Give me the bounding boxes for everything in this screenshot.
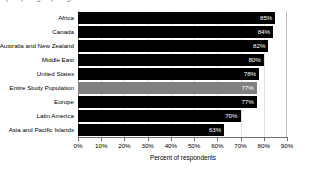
bar-category-label: Entire Study Population (9, 83, 74, 92)
x-tick-mark (171, 138, 172, 141)
bar-track: 63% (78, 124, 287, 136)
bar-value-label: 82% (253, 40, 265, 52)
bar-track: 77% (78, 82, 287, 94)
x-tick-mark (287, 138, 288, 141)
bar-rows: Africa85%Canada84%Australia and New Zeal… (0, 11, 313, 137)
x-tick-mark (78, 138, 79, 141)
bar-category-label: Africa (58, 13, 74, 22)
bar-chart: Africa85%Canada84%Australia and New Zeal… (0, 0, 313, 172)
bar-category-label: Asia and Pacific Islands (9, 125, 74, 134)
bar: 63% (78, 124, 224, 136)
bar-track: 84% (78, 26, 287, 38)
bar-track: 78% (78, 68, 287, 80)
bar-category-label: Middle East (42, 55, 74, 64)
bar-row: United States78% (0, 67, 313, 81)
bar-track: 70% (78, 110, 287, 122)
x-tick-label: 80% (258, 142, 270, 150)
bar: 82% (78, 40, 268, 52)
bar: 80% (78, 54, 264, 66)
bar-row: Canada84% (0, 25, 313, 39)
x-tick-mark (241, 138, 242, 141)
bar-value-label: 77% (241, 96, 253, 108)
bar-track: 82% (78, 40, 287, 52)
x-tick-label: 0% (74, 142, 83, 150)
x-tick-label: 10% (95, 142, 107, 150)
bar-row: Middle East80% (0, 53, 313, 67)
x-tick-mark (124, 138, 125, 141)
x-tick-label: 60% (211, 142, 223, 150)
bar: 77% (78, 96, 257, 108)
bar-category-label: Australia and New Zealand (0, 41, 74, 50)
x-axis-title: Percent of respondents (78, 153, 288, 162)
bar: 77% (78, 82, 257, 94)
bar-value-label: 63% (209, 124, 221, 136)
x-tick-mark (217, 138, 218, 141)
bar-category-label: Europe (54, 97, 74, 106)
bar-category-label: Canada (52, 27, 74, 36)
x-tick-mark (148, 138, 149, 141)
bar-track: 80% (78, 54, 287, 66)
x-tick-label: 70% (234, 142, 246, 150)
bar-category-label: United States (37, 69, 74, 78)
bar-row: Asia and Pacific Islands63% (0, 123, 313, 137)
bar: 70% (78, 110, 241, 122)
x-tick-mark (101, 138, 102, 141)
x-tick-mark (194, 138, 195, 141)
bar-value-label: 84% (258, 26, 270, 38)
bar-track: 85% (78, 12, 287, 24)
bar-category-label: Latin America (37, 111, 75, 120)
x-axis-line (78, 137, 288, 138)
bar-value-label: 78% (244, 68, 256, 80)
bar-row: Europe77% (0, 95, 313, 109)
x-tick-mark (264, 138, 265, 141)
x-tick-label: 90% (281, 142, 293, 150)
bar-track: 77% (78, 96, 287, 108)
bar-value-label: 80% (248, 54, 260, 66)
x-tick-label: 20% (118, 142, 130, 150)
bar-row: Latin America70% (0, 109, 313, 123)
bar-row: Australia and New Zealand82% (0, 39, 313, 53)
bar-value-label: 85% (260, 12, 272, 24)
bar-row: Entire Study Population77% (0, 81, 313, 95)
bar-value-label: 77% (241, 82, 253, 94)
x-tick-label: 50% (188, 142, 200, 150)
bar: 78% (78, 68, 259, 80)
bar: 85% (78, 12, 275, 24)
bar-value-label: 70% (225, 110, 237, 122)
x-tick-label: 30% (141, 142, 153, 150)
bar-row: Africa85% (0, 11, 313, 25)
bar: 84% (78, 26, 273, 38)
x-tick-label: 40% (165, 142, 177, 150)
